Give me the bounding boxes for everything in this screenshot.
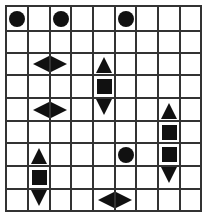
ship-square-icon [162, 125, 177, 140]
grid-cell[interactable] [70, 5, 92, 30]
grid-cell[interactable] [70, 142, 92, 165]
grid-cell[interactable] [27, 120, 49, 142]
ship-end-down-icon [31, 190, 47, 206]
grid-cell[interactable] [114, 74, 135, 97]
ship-circle-icon [118, 147, 134, 163]
grid-line-vertical [114, 5, 116, 210]
puzzle-grid [5, 5, 200, 210]
grid-cell[interactable] [49, 188, 70, 210]
grid-cell[interactable] [70, 120, 92, 142]
grid-line-vertical [92, 5, 94, 210]
grid-line-horizontal [5, 74, 202, 76]
grid-line-vertical [5, 5, 7, 210]
grid-line-horizontal [5, 30, 202, 32]
grid-cell[interactable] [5, 120, 27, 142]
grid-cell[interactable] [5, 97, 27, 120]
grid-cell[interactable] [157, 30, 179, 52]
grid-cell[interactable] [135, 5, 157, 30]
grid-line-vertical [135, 5, 137, 210]
ship-circle-icon [53, 11, 69, 27]
grid-cell[interactable] [92, 5, 114, 30]
grid-line-horizontal [5, 142, 202, 144]
ship-end-down-icon [161, 167, 177, 183]
grid-cell[interactable] [70, 52, 92, 74]
grid-cell[interactable] [135, 97, 157, 120]
grid-line-vertical [179, 5, 181, 210]
grid-cell[interactable] [49, 165, 70, 188]
grid-cell[interactable] [27, 30, 49, 52]
grid-cell[interactable] [135, 52, 157, 74]
grid-cell[interactable] [70, 188, 92, 210]
grid-cell[interactable] [92, 30, 114, 52]
ship-end-down-icon [96, 99, 112, 115]
ship-square-icon [32, 170, 47, 185]
grid-cell[interactable] [49, 120, 70, 142]
ship-end-up-icon [96, 57, 112, 73]
grid-cell[interactable] [135, 30, 157, 52]
grid-cell[interactable] [92, 165, 114, 188]
grid-cell[interactable] [157, 5, 179, 30]
grid-cell[interactable] [179, 52, 200, 74]
grid-cell[interactable] [179, 74, 200, 97]
grid-cell[interactable] [5, 165, 27, 188]
ship-end-up-icon [161, 103, 177, 119]
grid-line-vertical [70, 5, 72, 210]
grid-cell[interactable] [5, 52, 27, 74]
grid-cell[interactable] [135, 188, 157, 210]
grid-line-vertical [157, 5, 159, 210]
ship-end-left-icon [33, 56, 49, 72]
grid-cell[interactable] [114, 52, 135, 74]
grid-cell[interactable] [92, 120, 114, 142]
grid-cell[interactable] [92, 142, 114, 165]
grid-cell[interactable] [157, 188, 179, 210]
grid-line-vertical [27, 5, 29, 210]
grid-line-vertical [200, 5, 202, 210]
grid-cell[interactable] [27, 74, 49, 97]
grid-cell[interactable] [179, 120, 200, 142]
grid-cell[interactable] [5, 30, 27, 52]
grid-cell[interactable] [157, 52, 179, 74]
ship-end-right-icon [116, 192, 132, 208]
grid-cell[interactable] [5, 74, 27, 97]
grid-cell[interactable] [70, 165, 92, 188]
grid-cell[interactable] [179, 188, 200, 210]
grid-cell[interactable] [135, 142, 157, 165]
ship-end-right-icon [51, 102, 67, 118]
grid-cell[interactable] [70, 74, 92, 97]
grid-cell[interactable] [157, 74, 179, 97]
ship-end-right-icon [51, 56, 67, 72]
grid-cell[interactable] [114, 120, 135, 142]
grid-cell[interactable] [114, 165, 135, 188]
grid-cell[interactable] [179, 30, 200, 52]
grid-cell[interactable] [70, 97, 92, 120]
grid-cell[interactable] [5, 142, 27, 165]
grid-line-horizontal [5, 120, 202, 122]
ship-circle-icon [9, 11, 25, 27]
grid-cell[interactable] [49, 74, 70, 97]
ship-end-left-icon [98, 192, 114, 208]
grid-cell[interactable] [179, 142, 200, 165]
grid-cell[interactable] [5, 188, 27, 210]
ship-circle-icon [118, 11, 134, 27]
grid-cell[interactable] [27, 5, 49, 30]
grid-cell[interactable] [114, 30, 135, 52]
ship-end-left-icon [33, 102, 49, 118]
grid-cell[interactable] [135, 165, 157, 188]
grid-cell[interactable] [49, 30, 70, 52]
grid-cell[interactable] [70, 30, 92, 52]
grid-cell[interactable] [135, 74, 157, 97]
ship-end-up-icon [31, 148, 47, 164]
grid-cell[interactable] [49, 142, 70, 165]
ship-square-icon [97, 79, 112, 94]
grid-line-horizontal [5, 5, 202, 7]
ship-square-icon [162, 147, 177, 162]
grid-cell[interactable] [179, 97, 200, 120]
grid-line-horizontal [5, 52, 202, 54]
grid-cell[interactable] [179, 5, 200, 30]
grid-cell[interactable] [114, 97, 135, 120]
grid-cell[interactable] [179, 165, 200, 188]
grid-line-horizontal [5, 210, 202, 212]
grid-cell[interactable] [135, 120, 157, 142]
